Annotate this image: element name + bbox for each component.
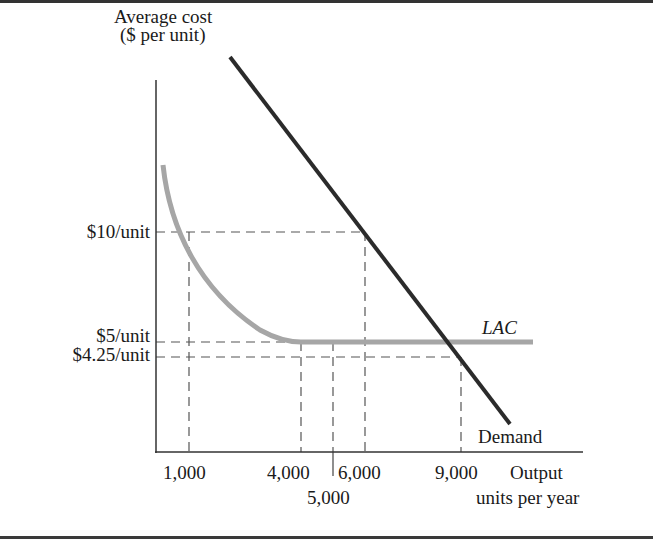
lac-label: LAC bbox=[482, 318, 517, 338]
y-axis-title-line2: ($ per unit) bbox=[120, 25, 205, 45]
bottom-border-rule bbox=[0, 536, 653, 539]
x-tick-4000: 4,000 bbox=[267, 463, 310, 483]
x-tick-5000: 5,000 bbox=[307, 488, 350, 508]
y-tick-10: $10/unit bbox=[87, 222, 150, 242]
demand-line bbox=[230, 57, 510, 424]
demand-label: Demand bbox=[478, 427, 542, 447]
y-tick-5: $5/unit bbox=[96, 326, 150, 346]
lac-curve bbox=[163, 165, 533, 342]
x-tick-1000: 1,000 bbox=[163, 463, 206, 483]
x-tick-9000: 9,000 bbox=[435, 463, 478, 483]
x-axis-title-line2: units per year bbox=[476, 488, 579, 508]
x-tick-6000: 6,000 bbox=[338, 463, 381, 483]
x-axis-title-line1: Output bbox=[510, 463, 563, 483]
y-tick-425: $4.25/unit bbox=[72, 345, 150, 365]
